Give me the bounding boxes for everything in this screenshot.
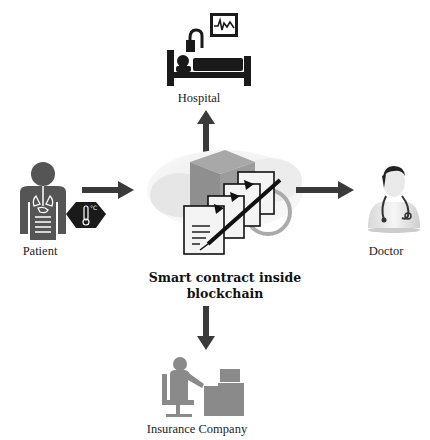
smart-contract-label-line2: blockchain [130, 286, 320, 302]
blockchain-cloud-icon [140, 140, 310, 260]
hospital-bed-icon [160, 8, 270, 88]
doctor-icon [362, 162, 430, 234]
svg-text:°C: °C [90, 204, 97, 211]
arrow-to-doctor [296, 180, 354, 200]
patient-body-icon: °C [8, 162, 108, 242]
insurance-label: Insurance Company [132, 422, 262, 437]
hospital-label: Hospital [160, 91, 238, 106]
arrow-to-insurance [196, 306, 216, 350]
patient-node: °C Patient [8, 162, 108, 262]
smart-contract-node: Smart contract inside blockchain [140, 140, 310, 305]
arrow-patient-to-contract [82, 180, 134, 200]
smart-contract-label-line1: Smart contract inside [130, 270, 320, 286]
doctor-node: Doctor [362, 162, 430, 262]
patient-label: Patient [10, 244, 70, 259]
insurance-node: Insurance Company [140, 356, 290, 440]
doctor-label: Doctor [356, 244, 416, 259]
smart-contract-label: Smart contract inside blockchain [130, 270, 320, 302]
insurance-office-icon [140, 356, 290, 418]
hospital-node: Hospital [160, 8, 270, 108]
